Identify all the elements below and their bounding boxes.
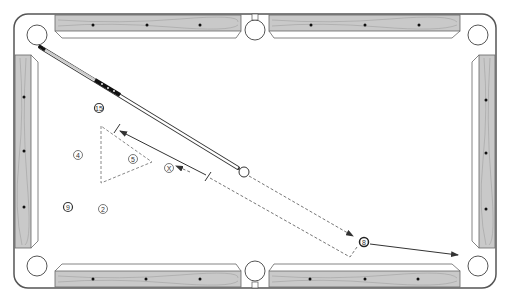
- ball-8: 8: [360, 238, 369, 247]
- pocket-bottom-middle: [245, 261, 265, 281]
- pocket-top-left: [27, 25, 47, 45]
- pocket-top-middle: [245, 20, 265, 40]
- top-right-rail: [269, 15, 460, 31]
- svg-text:15: 15: [95, 105, 103, 112]
- pocket-bottom-left: [27, 256, 47, 276]
- svg-text:X: X: [167, 165, 172, 172]
- cue-ball: [239, 167, 249, 177]
- svg-text:9: 9: [66, 204, 70, 211]
- ball-2: 2: [99, 205, 108, 214]
- pocket-bottom-right: [468, 256, 488, 276]
- svg-text:5: 5: [131, 156, 135, 163]
- svg-text:2: 2: [101, 206, 105, 213]
- svg-text:8: 8: [362, 239, 366, 246]
- table-frame: [14, 14, 496, 288]
- top-left-rail: [55, 15, 241, 31]
- svg-text:4: 4: [76, 152, 80, 159]
- right-rail: [479, 55, 495, 248]
- ball-4: 4: [74, 151, 83, 160]
- ball-5: 5: [129, 155, 138, 164]
- ball-x-ghost: X: [165, 164, 174, 173]
- pocket-top-right: [468, 25, 488, 45]
- ball-9: 9: [64, 203, 73, 212]
- ball-15: 15: [95, 104, 104, 113]
- billiards-table-diagram: 15 4 5 X 9 2 8: [0, 0, 510, 302]
- bottom-left-rail: [55, 271, 241, 287]
